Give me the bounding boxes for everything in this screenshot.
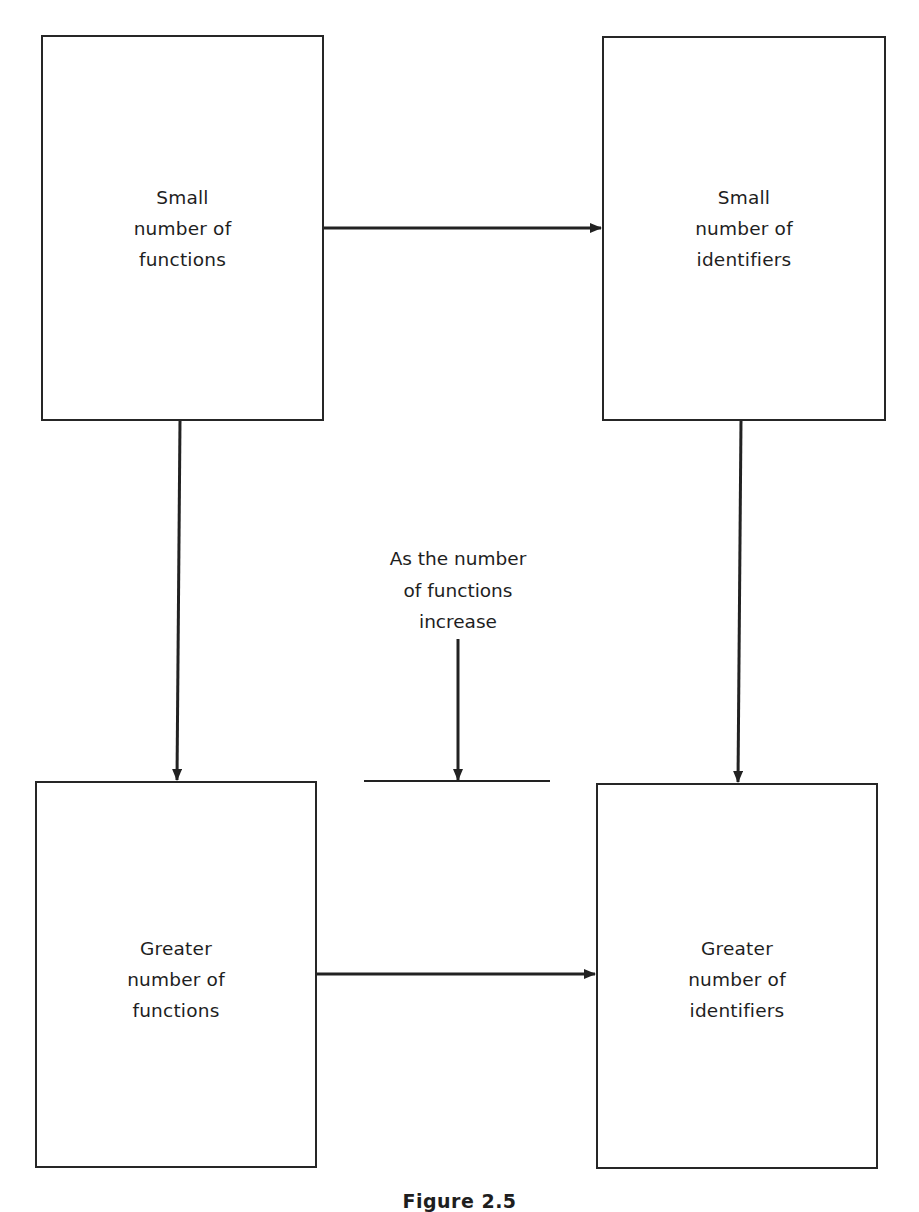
box-greater-functions: Greater number of functions	[35, 781, 317, 1168]
figure-caption: Figure 2.5	[0, 1190, 919, 1212]
label-line: Small	[604, 182, 884, 213]
box-label: Greater number of identifiers	[598, 933, 876, 1026]
label-line: number of	[604, 213, 884, 244]
box-small-functions: Small number of functions	[41, 35, 324, 421]
label-line: functions	[43, 244, 322, 275]
box-label: Greater number of functions	[37, 933, 315, 1026]
box-greater-identifiers: Greater number of identifiers	[596, 783, 878, 1169]
box-small-identifiers: Small number of identifiers	[602, 36, 886, 421]
label-line: number of	[37, 964, 315, 995]
label-line: identifiers	[604, 244, 884, 275]
annotation-line: of functions	[338, 575, 578, 607]
box-label: Small number of identifiers	[604, 182, 884, 275]
arrow-small-functions-to-greater-functions	[177, 420, 180, 780]
arrow-small-identifiers-to-greater-identifiers	[738, 420, 741, 782]
label-line: Greater	[598, 933, 876, 964]
label-line: identifiers	[598, 995, 876, 1026]
annotation-line: As the number	[338, 543, 578, 575]
label-line: Small	[43, 182, 322, 213]
label-line: functions	[37, 995, 315, 1026]
label-line: number of	[598, 964, 876, 995]
box-label: Small number of functions	[43, 182, 322, 275]
label-line: Greater	[37, 933, 315, 964]
annotation-line: increase	[338, 606, 578, 638]
label-line: number of	[43, 213, 322, 244]
annotation-text: As the number of functions increase	[338, 543, 578, 638]
